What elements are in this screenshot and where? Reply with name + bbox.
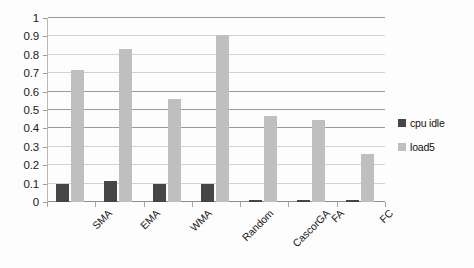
legend-label: load5 xyxy=(410,141,435,153)
bar-group xyxy=(337,18,385,202)
bar-cpu-idle xyxy=(201,184,214,202)
legend-item-cpu[interactable]: cpu idle xyxy=(398,117,472,129)
bar-group xyxy=(144,18,192,202)
bar-cpu-idle xyxy=(56,184,69,202)
x-axis-label-ema: EMA xyxy=(138,207,162,231)
bar-load5 xyxy=(264,116,277,202)
y-tick-label: 0.4 xyxy=(24,122,39,134)
legend-item-load[interactable]: load5 xyxy=(398,141,472,153)
legend-label: cpu idle xyxy=(410,117,445,129)
bar-group xyxy=(240,18,288,202)
x-axis-label-cascorga: CascorGA xyxy=(290,207,332,249)
bar-load5 xyxy=(119,49,132,202)
y-tick-label: 0.8 xyxy=(24,49,39,61)
y-tick-label: 0.5 xyxy=(24,104,39,116)
x-axis-label-fa: FA xyxy=(328,207,345,224)
x-axis-label-sma: SMA xyxy=(90,207,114,231)
bar-cpu-idle xyxy=(153,184,166,202)
bar-load5 xyxy=(168,99,181,202)
y-tick-label: 0.1 xyxy=(24,178,39,190)
bar-load5 xyxy=(216,35,229,202)
y-tick-label: 0.7 xyxy=(24,67,39,79)
y-tick-label: 0.2 xyxy=(24,159,39,171)
y-tick-label: 1 xyxy=(33,12,39,24)
y-tick-label: 0.6 xyxy=(24,86,39,98)
legend-swatch-icon xyxy=(398,119,406,127)
y-tick-label: 0.3 xyxy=(24,141,39,153)
y-tick-label: 0.9 xyxy=(24,30,39,42)
bar-load5 xyxy=(71,70,84,202)
bar-group xyxy=(288,18,336,202)
y-tick-label: 0 xyxy=(33,196,39,208)
bar-group xyxy=(47,18,95,202)
bar-load5 xyxy=(312,120,325,202)
bar-group xyxy=(192,18,240,202)
chart-legend: cpu idleload5 xyxy=(398,117,472,165)
y-axis: 10.90.80.70.60.50.40.30.20.10 xyxy=(0,0,44,268)
bars-layer xyxy=(47,18,385,202)
x-axis-label-wma: WMA xyxy=(187,207,213,233)
bar-chart: 10.90.80.70.60.50.40.30.20.10 SMAEMAWMAR… xyxy=(0,0,474,268)
bar-load5 xyxy=(361,154,374,202)
x-axis-labels: SMAEMAWMARandomCascorGAFAFC xyxy=(47,207,407,267)
x-axis-label-random: Random xyxy=(239,207,275,243)
bar-group xyxy=(95,18,143,202)
x-axis-label-fc: FC xyxy=(377,207,395,225)
legend-swatch-icon xyxy=(398,143,406,151)
bar-cpu-idle xyxy=(104,181,117,202)
